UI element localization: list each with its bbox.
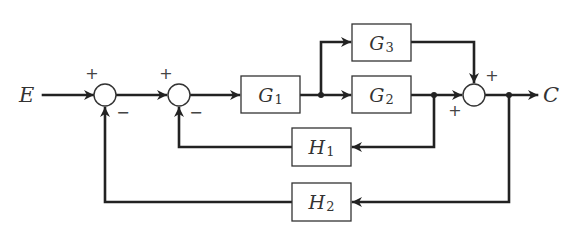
branch-point-g2 (431, 92, 437, 98)
block-g3-subscript: 3 (385, 40, 393, 55)
summing-junction-1 (94, 84, 116, 106)
junction-1-plus-sign: + (85, 66, 99, 82)
junction-3-top-plus-sign: + (485, 68, 499, 84)
input-label: E (19, 85, 34, 106)
junction-2-minus-sign: − (189, 105, 203, 121)
g3-to-s3-arrow (411, 42, 474, 82)
block-g1-label: G1 (241, 76, 300, 113)
block-h1-symbol: H (309, 136, 326, 158)
block-g1-symbol: G (258, 84, 273, 106)
output-label: C (543, 85, 559, 106)
block-g2-subscript: 2 (385, 92, 393, 107)
summing-junction-3 (463, 84, 485, 106)
block-h2-symbol: H (309, 191, 326, 213)
branch-point-output (506, 92, 512, 98)
block-h2-label: H2 (292, 183, 351, 221)
block-g3-label: G3 (352, 24, 411, 61)
junction-3-left-plus-sign: + (448, 103, 462, 119)
junction-1-minus-sign: − (116, 105, 130, 121)
h2-feedback-out (105, 108, 292, 202)
block-diagram: E C G1 G2 G3 H1 H2 + − + − + + (0, 0, 578, 243)
block-h1-subscript: 1 (326, 144, 334, 159)
block-g1-subscript: 1 (274, 92, 282, 107)
g1-to-g3-arrow (321, 42, 350, 95)
block-g2-label: G2 (352, 76, 411, 113)
diagram-wires (0, 0, 578, 243)
block-h1-label: H1 (292, 128, 351, 166)
junction-2-plus-sign: + (159, 66, 173, 82)
branch-point-g1 (318, 92, 324, 98)
block-g3-symbol: G (369, 32, 384, 54)
block-h2-subscript: 2 (326, 199, 334, 214)
block-g2-symbol: G (369, 84, 384, 106)
summing-junction-2 (168, 84, 190, 106)
